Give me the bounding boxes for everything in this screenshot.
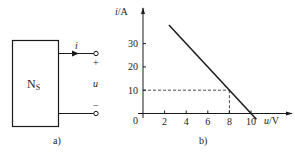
x-axis-label: u/V: [264, 115, 280, 126]
panel-b-chart: i/A u/V 0 246810 102030 b): [115, 6, 292, 147]
y-axis-label: i/A: [115, 6, 129, 17]
x-tick-label: 6: [205, 116, 210, 127]
top-terminal: [94, 51, 98, 55]
characteristic-line: [169, 25, 256, 119]
voltage-label: u: [93, 78, 98, 89]
panel-a-label: a): [53, 135, 61, 147]
panel-b-label: b): [199, 135, 207, 147]
y-tick-label: 10: [128, 85, 138, 96]
plus-sign: +: [93, 57, 99, 68]
y-tick-label: 20: [128, 61, 138, 72]
panel-a-circuit: NS i + u − a): [13, 40, 100, 147]
x-tick-label: 8: [227, 116, 232, 127]
origin-label: 0: [133, 115, 138, 126]
bottom-terminal: [94, 111, 98, 115]
x-tick-label: 4: [184, 116, 189, 127]
x-tick-label: 2: [162, 116, 167, 127]
current-label: i: [75, 40, 78, 51]
figure: NS i + u − a) i/A u/V 0 246810 102030 b): [0, 0, 295, 158]
current-arrow-icon: [72, 51, 79, 57]
y-tick-label: 30: [128, 38, 138, 49]
minus-sign: −: [93, 100, 99, 111]
network-label: NS: [27, 77, 40, 92]
